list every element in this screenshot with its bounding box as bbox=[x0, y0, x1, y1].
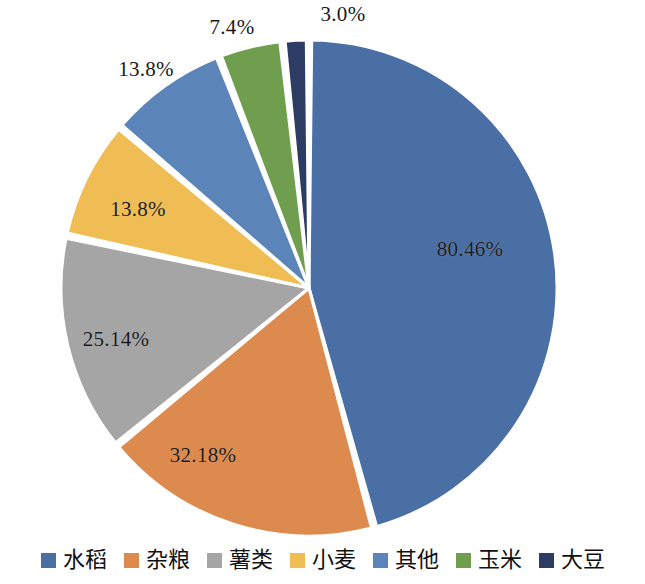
pie-slice-percentage-label: 80.46% bbox=[437, 237, 504, 262]
legend-color-swatch-icon bbox=[207, 553, 222, 568]
pie-slice-percentage-label: 13.8% bbox=[118, 57, 174, 82]
legend-item-label: 薯类 bbox=[229, 549, 273, 571]
pie-slice-group bbox=[60, 39, 558, 537]
pie-chart-canvas bbox=[0, 0, 645, 545]
legend-item-label: 杂粮 bbox=[146, 549, 190, 571]
legend-item[interactable]: 大豆 bbox=[539, 549, 605, 571]
pie-chart: 80.46%32.18%25.14%13.8%13.8%7.4%3.0% 水稻杂… bbox=[0, 0, 645, 584]
legend-item[interactable]: 小麦 bbox=[290, 549, 356, 571]
legend-color-swatch-icon bbox=[290, 553, 305, 568]
legend-item[interactable]: 其他 bbox=[373, 549, 439, 571]
legend-item-label: 小麦 bbox=[312, 549, 356, 571]
legend-item[interactable]: 杂粮 bbox=[124, 549, 190, 571]
legend-item[interactable]: 玉米 bbox=[456, 549, 522, 571]
legend-item-label: 大豆 bbox=[561, 549, 605, 571]
legend-item-label: 其他 bbox=[395, 549, 439, 571]
chart-legend: 水稻杂粮薯类小麦其他玉米大豆 bbox=[0, 540, 645, 580]
legend-color-swatch-icon bbox=[41, 553, 56, 568]
pie-slice-percentage-label: 7.4% bbox=[210, 15, 255, 40]
legend-color-swatch-icon bbox=[539, 553, 554, 568]
legend-color-swatch-icon bbox=[124, 553, 139, 568]
legend-color-swatch-icon bbox=[456, 553, 471, 568]
pie-slice-percentage-label: 13.8% bbox=[110, 197, 166, 222]
pie-slice-percentage-label: 25.14% bbox=[83, 327, 150, 352]
legend-item-label: 玉米 bbox=[478, 549, 522, 571]
pie-slice-percentage-label: 3.0% bbox=[321, 2, 366, 27]
pie-slice-percentage-label: 32.18% bbox=[170, 443, 237, 468]
legend-item[interactable]: 薯类 bbox=[207, 549, 273, 571]
legend-item[interactable]: 水稻 bbox=[41, 549, 107, 571]
legend-item-label: 水稻 bbox=[63, 549, 107, 571]
legend-color-swatch-icon bbox=[373, 553, 388, 568]
